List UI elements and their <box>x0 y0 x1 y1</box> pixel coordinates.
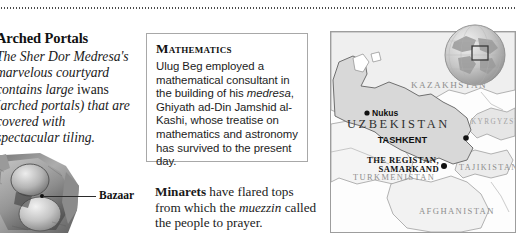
mathematics-medresa-term: medresa <box>247 87 291 99</box>
page-root: Arched Portals The Sher Dor Medresa's ma… <box>0 0 516 233</box>
arched-portals-column: Arched Portals The Sher Dor Medresa's ma… <box>0 30 136 147</box>
map-label-kyrgyzstan: KYRGYZSTAN <box>471 118 515 126</box>
arched-portals-body-part1: The Sher Dor Medresa's marvelous courtya… <box>0 49 129 97</box>
map-label-afghanistan: AFGHANISTAN <box>419 206 495 216</box>
map-label-tashkent: TASHKENT <box>378 135 428 145</box>
map-aral-sea-fragment <box>371 52 381 62</box>
mathematics-heading: Mathematics <box>156 41 298 56</box>
bazaar-label: Bazaar <box>99 188 134 202</box>
mathematics-sidebar-box: Mathematics Ulug Beg employed a mathemat… <box>146 33 308 162</box>
bazaar-callout: Bazaar <box>40 188 150 204</box>
map-label-tajikistan: TAJIKISTAN <box>459 163 515 172</box>
mathematics-body: Ulug Beg employed a mathematical consult… <box>156 60 298 169</box>
globe-inset-svg <box>442 22 508 88</box>
map-label-uzbekistan: UZBEKISTAN <box>347 117 450 131</box>
mathematics-box-inner: Mathematics Ulug Beg employed a mathemat… <box>147 34 307 175</box>
map-label-turkmenistan: TURKMENISTAN <box>353 173 435 182</box>
top-dotted-rule <box>0 7 516 9</box>
minarets-paragraph: Minarets have flared tops from which the… <box>155 184 320 231</box>
minarets-muezzin-term: muezzin <box>239 200 282 215</box>
map-marker-nukus <box>364 110 369 115</box>
map-marker-tashkent <box>463 135 469 141</box>
minarets-lead-word: Minarets <box>155 184 206 199</box>
arched-portals-iwans-term: iwans <box>77 82 109 97</box>
bazaar-leader-line <box>43 196 96 197</box>
arched-portals-body-part2: (arched portals) that are covered with s… <box>0 98 130 146</box>
arched-portals-heading: Arched Portals <box>0 30 136 47</box>
globe-locator-inset <box>442 22 508 88</box>
map-label-samarkand: SAMARKAND <box>379 164 439 174</box>
map-label-nukus: Nukus <box>372 108 398 118</box>
arched-portals-body: The Sher Dor Medresa's marvelous courtya… <box>0 49 132 147</box>
map-marker-samarkand <box>441 163 447 169</box>
